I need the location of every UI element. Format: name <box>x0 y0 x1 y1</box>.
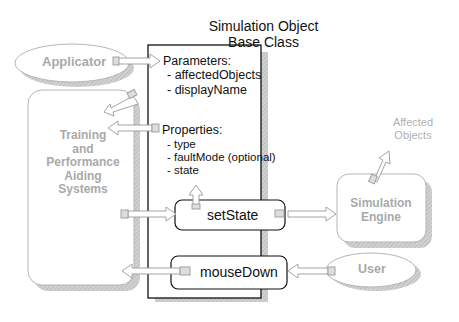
diagram-title: Simulation Object Base Class <box>0 18 459 50</box>
parameter-display-name: - displayName <box>167 83 247 97</box>
simulation-engine-label: Simulation Engine <box>346 196 416 224</box>
property-state: - state <box>167 164 199 177</box>
applicator-label: Applicator <box>42 55 106 70</box>
properties-header: Properties: <box>162 123 222 137</box>
parameters-header: Parameters: <box>163 54 231 68</box>
parameter-affected-objects: - affectedObjects <box>167 68 261 82</box>
affected-objects-label: Affected Objects <box>388 116 438 142</box>
arrow-setstate-to-engine <box>288 207 336 221</box>
mousedown-label: mouseDown <box>200 264 278 280</box>
user-label: User <box>358 262 386 276</box>
setstate-label: setState <box>207 207 258 223</box>
training-systems-label: Training and Performance Aiding Systems <box>38 129 128 197</box>
arrow-user-to-mousedown <box>288 264 328 278</box>
property-fault-mode: - faultMode (optional) <box>167 151 276 164</box>
property-type: - type <box>167 138 196 151</box>
